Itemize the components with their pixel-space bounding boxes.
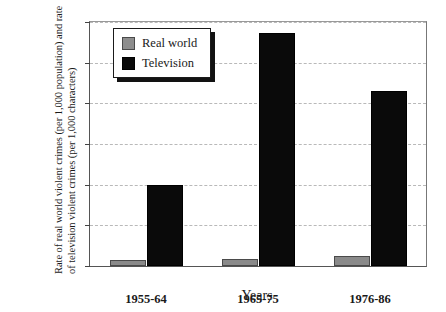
bar-television xyxy=(259,33,295,266)
bar-group xyxy=(222,22,295,266)
y-axis-tick-mark xyxy=(85,22,90,23)
bar-real-world xyxy=(334,256,370,266)
legend-item-television: Television xyxy=(114,53,210,73)
bar-real-world xyxy=(222,259,258,266)
bar-television xyxy=(147,185,183,266)
gray-square-icon xyxy=(122,37,135,50)
bar-group xyxy=(334,22,407,266)
y-axis-tick-mark xyxy=(85,144,90,145)
y-axis-tick-mark xyxy=(85,63,90,64)
legend-label-television: Television xyxy=(142,56,194,71)
black-square-icon xyxy=(122,57,135,70)
y-axis-tick-mark xyxy=(85,103,90,104)
bar-television xyxy=(371,91,407,266)
y-axis-label: Rate of real world violent crimes (per 1… xyxy=(52,2,78,274)
y-axis-label-container: Rate of real world violent crimes (per 1… xyxy=(0,0,56,278)
legend-item-real-world: Real world xyxy=(114,33,210,53)
bar-real-world xyxy=(110,260,146,266)
y-axis-tick-mark xyxy=(85,185,90,186)
y-axis-tick-mark xyxy=(85,266,90,267)
x-axis-label: Years xyxy=(89,288,425,304)
chart-legend: Real world Television xyxy=(113,28,211,78)
legend-label-real-world: Real world xyxy=(142,36,197,51)
y-axis-tick-mark xyxy=(85,225,90,226)
